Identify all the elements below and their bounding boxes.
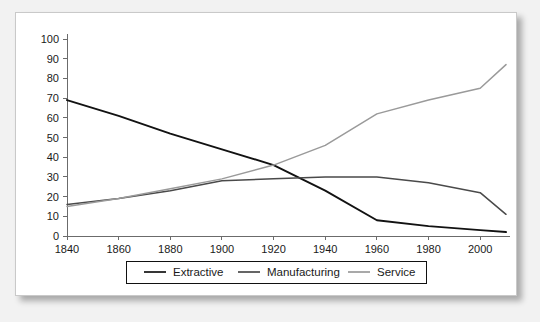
y-tick-label: 70 xyxy=(47,92,59,104)
series-line-extractive xyxy=(67,100,506,232)
y-tick-label: 10 xyxy=(47,210,59,222)
x-tick-label: 1880 xyxy=(158,243,182,255)
axes-group: 0102030405060708090100184018601880190019… xyxy=(41,33,510,255)
chart-card: 0102030405060708090100184018601880190019… xyxy=(15,12,517,296)
y-tick-label: 20 xyxy=(47,191,59,203)
series-group xyxy=(67,65,506,232)
legend-label-service: Service xyxy=(377,266,415,278)
x-tick-label: 1920 xyxy=(261,243,285,255)
x-tick-label: 1960 xyxy=(365,243,389,255)
y-tick-label: 60 xyxy=(47,112,59,124)
y-tick-label: 40 xyxy=(47,151,59,163)
x-tick-label: 1940 xyxy=(313,243,337,255)
x-tick-label: 1860 xyxy=(106,243,130,255)
legend-label-manufacturing: Manufacturing xyxy=(267,266,340,278)
screenshot-root: 0102030405060708090100184018601880190019… xyxy=(0,0,540,322)
x-tick-label: 1900 xyxy=(210,243,234,255)
line-chart: 0102030405060708090100184018601880190019… xyxy=(16,13,518,297)
y-tick-label: 50 xyxy=(47,132,59,144)
y-tick-label: 90 xyxy=(47,53,59,65)
x-tick-label: 1840 xyxy=(55,243,79,255)
x-tick-label: 2000 xyxy=(468,243,492,255)
y-tick-label: 100 xyxy=(41,33,59,45)
y-tick-label: 30 xyxy=(47,171,59,183)
y-tick-label: 80 xyxy=(47,72,59,84)
plot-area: 0102030405060708090100184018601880190019… xyxy=(16,13,518,297)
legend-label-extractive: Extractive xyxy=(173,266,224,278)
y-tick-label: 0 xyxy=(53,230,59,242)
x-tick-label: 1980 xyxy=(416,243,440,255)
legend: ExtractiveManufacturingService xyxy=(126,261,426,283)
